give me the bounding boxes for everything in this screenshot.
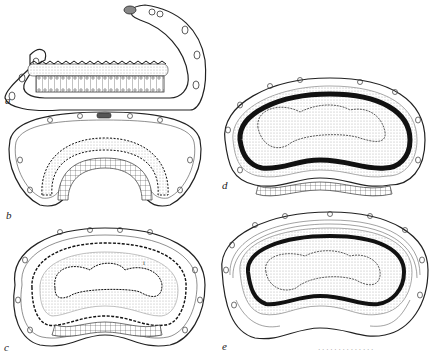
panel-c [14,228,205,347]
panel-e [222,212,428,339]
figure-canvas: a b i c [0,0,431,354]
panel-a [5,5,206,111]
panel-label-e: e [222,340,227,352]
panel-label-d: d [222,179,228,191]
panel-label-c: c [4,341,9,353]
caption-fragment: · · · · · · · · · · · · · · [318,346,373,354]
inner-label-i: i [143,259,145,267]
panel-b [9,112,201,206]
panel-label-b: b [6,209,12,221]
panel-label-a: a [5,94,11,106]
panel-d [225,78,425,196]
